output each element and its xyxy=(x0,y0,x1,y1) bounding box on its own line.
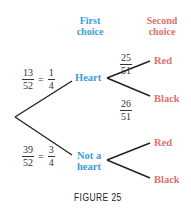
first-choice-header-line2: choice xyxy=(74,26,106,37)
fraction-13-52: 1352 xyxy=(22,68,34,91)
branch-not-heart-red xyxy=(107,143,150,160)
node-not-a-heart-line2: heart xyxy=(77,161,101,172)
node-heart-red: Red xyxy=(154,55,172,66)
node-heart: Heart xyxy=(75,72,101,83)
fraction-39-52: 3952 xyxy=(22,145,34,168)
figure-caption: FIGURE 25 xyxy=(74,192,122,203)
branch-not-heart-black xyxy=(107,160,150,178)
node-not-a-heart-line1: Not a xyxy=(77,150,101,161)
not-heart-probability: 3952 = 34 xyxy=(22,145,55,168)
second-choice-header-line2: choice xyxy=(143,26,181,37)
first-choice-header: First choice xyxy=(74,15,106,37)
node-heart-black: Black xyxy=(154,93,180,104)
node-not-heart-black: Black xyxy=(154,174,180,185)
node-not-heart-red: Red xyxy=(154,137,172,148)
second-choice-header-line1: Second xyxy=(143,15,181,26)
first-choice-header-line1: First xyxy=(74,15,106,26)
equals-sign: = xyxy=(38,151,44,162)
heart-black-probability: 2651 xyxy=(120,93,132,122)
equals-sign: = xyxy=(38,74,44,85)
heart-probability: 1352 = 14 xyxy=(22,68,55,91)
node-not-a-heart: Not a heart xyxy=(77,150,101,172)
fraction-3-4: 34 xyxy=(48,145,55,168)
fraction-1-4: 14 xyxy=(48,68,55,91)
heart-red-probability: 2551 xyxy=(120,47,132,76)
second-choice-header: Second choice xyxy=(143,15,181,37)
